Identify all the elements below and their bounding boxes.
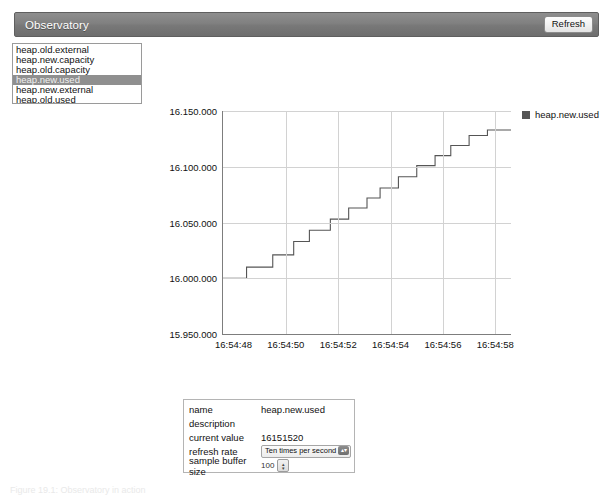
chart-xtick-label: 16:54:54	[372, 339, 409, 350]
detail-row-label: name	[189, 404, 261, 415]
chart-ytick-label: 15.950.000	[169, 329, 217, 340]
metric-list[interactable]: heap.old.externalheap.new.capacityheap.o…	[12, 43, 142, 104]
detail-row: current value16151520	[189, 431, 349, 444]
chart-gridline-horizontal	[223, 111, 511, 112]
legend-label: heap.new.used	[535, 109, 599, 120]
chart-gridline-vertical	[338, 111, 339, 334]
chart-xtick-label: 16:54:56	[424, 339, 461, 350]
metric-detail-panel: nameheap.new.useddescriptioncurrent valu…	[183, 399, 355, 473]
chart-legend: heap.new.used	[522, 109, 599, 120]
chart-ytick-label: 16.000.000	[169, 273, 217, 284]
figure-caption: Figure 19.1: Observatory in action	[10, 485, 146, 495]
chart-gridline-vertical	[495, 111, 496, 334]
chart-gridline-horizontal	[223, 223, 511, 224]
chart-xtick-label: 16:54:50	[267, 339, 304, 350]
chart-plot-area: 15.950.00016.000.00016.050.00016.100.000…	[222, 111, 511, 335]
detail-row-value: 16151520	[261, 432, 303, 443]
sample-buffer-size-stepper[interactable]: 100▴▾	[261, 459, 289, 472]
detail-row: nameheap.new.used	[189, 403, 349, 416]
detail-row-label: sample buffer size	[189, 455, 261, 477]
chart-area: 15.950.00016.000.00016.050.00016.100.000…	[160, 104, 600, 354]
chart-gridline-vertical	[443, 111, 444, 334]
refresh-button[interactable]: Refresh	[544, 16, 593, 33]
metric-list-item[interactable]: heap.old.used	[13, 95, 141, 104]
detail-row-label: description	[189, 418, 261, 429]
chart-gridline-horizontal	[223, 167, 511, 168]
detail-row-label: current value	[189, 432, 261, 443]
chart-ytick-label: 16.050.000	[169, 217, 217, 228]
chart-xtick-label: 16:54:48	[215, 339, 252, 350]
detail-row: sample buffer size100▴▾	[189, 459, 349, 472]
chevron-updown-icon[interactable]: ▴▾	[338, 446, 349, 455]
chart-xtick-label: 16:54:52	[320, 339, 357, 350]
chart-ytick-label: 16.150.000	[169, 106, 217, 117]
stepper-arrows-icon[interactable]: ▴▾	[277, 459, 289, 472]
detail-row-value: heap.new.used	[261, 404, 325, 415]
chart-xtick-label: 16:54:58	[477, 339, 514, 350]
page-title: Observatory	[25, 19, 89, 31]
refresh-rate-value: Ten times per second	[265, 446, 336, 455]
chart-gridline-horizontal	[223, 278, 511, 279]
chart-gridline-vertical	[286, 111, 287, 334]
app-header: Observatory Refresh	[14, 12, 599, 37]
chart-gridline-vertical	[391, 111, 392, 334]
detail-row: description	[189, 417, 349, 430]
legend-swatch-icon	[522, 111, 530, 119]
chart-ytick-label: 16.100.000	[169, 161, 217, 172]
sample-buffer-size-value: 100	[261, 461, 274, 470]
refresh-rate-select[interactable]: Ten times per second▴▾	[261, 445, 351, 458]
